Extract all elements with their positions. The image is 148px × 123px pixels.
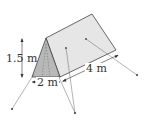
rope-anchor	[85, 38, 87, 40]
arrow-left-icon	[62, 79, 67, 82]
height-label: 1.5 m	[6, 53, 37, 64]
tent-peg	[74, 112, 76, 114]
rope-anchor	[65, 47, 67, 49]
guy-rope	[12, 74, 34, 109]
length-label: 4 m	[85, 63, 108, 74]
tent-peg	[11, 108, 13, 110]
arrow-right-icon	[115, 55, 119, 58]
tent-peg	[136, 74, 138, 76]
arrow-up-icon	[21, 38, 24, 42]
arrow-down-icon	[21, 74, 24, 78]
arrow-left-icon	[32, 81, 35, 84]
base-label: 2 m	[36, 77, 59, 88]
